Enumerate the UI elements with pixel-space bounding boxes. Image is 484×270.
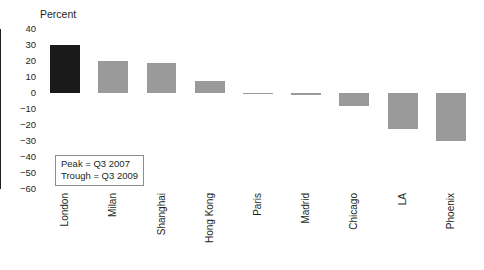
x-tick-label-text: Milan xyxy=(108,193,118,217)
y-tick-label: −60 xyxy=(2,184,36,194)
x-tick-label-text: Hong Kong xyxy=(205,193,215,243)
x-tick-label: Paris xyxy=(234,193,282,270)
y-tick-label: −50 xyxy=(2,168,36,178)
y-tick-label: 40 xyxy=(2,24,36,34)
bar xyxy=(388,93,418,129)
y-tick-label: 20 xyxy=(2,56,36,66)
x-tick-label: London xyxy=(41,193,89,270)
bar xyxy=(50,45,80,93)
bar xyxy=(243,93,273,94)
x-tick-label-text: Chicago xyxy=(349,193,359,230)
y-tick-label: −20 xyxy=(2,120,36,130)
y-tick-label: −10 xyxy=(2,104,36,114)
y-tick-label: 10 xyxy=(2,72,36,82)
bar-chart: Percent 403020100−10−20−30−40−50−60 Lond… xyxy=(0,0,484,270)
y-tick-label: 0 xyxy=(2,88,36,98)
annotation-peak: Peak = Q3 2007 xyxy=(61,158,138,170)
x-tick-label-text: Shanghai xyxy=(157,193,167,235)
bar xyxy=(291,93,321,95)
x-tick-label-text: London xyxy=(60,193,70,226)
annotation-trough: Trough = Q3 2009 xyxy=(61,170,138,182)
bar xyxy=(147,63,177,93)
x-tick-label: Madrid xyxy=(282,193,330,270)
bar xyxy=(195,81,225,93)
x-axis-tick-labels: LondonMilanShanghaiHong KongParisMadridC… xyxy=(41,193,475,270)
y-tick-label: 30 xyxy=(2,40,36,50)
x-tick-label-text: Phoenix xyxy=(446,193,456,229)
bar xyxy=(98,61,128,93)
y-tick-label: −40 xyxy=(2,152,36,162)
y-axis-title: Percent xyxy=(40,8,76,20)
x-tick-label: Milan xyxy=(89,193,137,270)
x-tick-label-text: Madrid xyxy=(301,193,311,224)
bar xyxy=(339,93,369,106)
x-tick-label: Hong Kong xyxy=(186,193,234,270)
annotation-box: Peak = Q3 2007 Trough = Q3 2009 xyxy=(55,155,144,186)
y-tick-label: −30 xyxy=(2,136,36,146)
x-tick-label: Chicago xyxy=(330,193,378,270)
x-tick-label: Shanghai xyxy=(137,193,185,270)
x-tick-label: LA xyxy=(379,193,427,270)
bar xyxy=(436,93,466,141)
x-tick-label-text: Paris xyxy=(253,193,263,216)
x-tick-label: Phoenix xyxy=(427,193,475,270)
y-axis-line xyxy=(0,29,1,189)
x-tick-label-text: LA xyxy=(398,193,408,205)
